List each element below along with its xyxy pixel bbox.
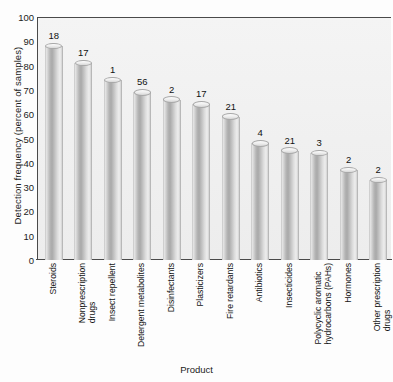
bar-value-label: 4 — [258, 127, 263, 138]
bar: 2 — [340, 170, 358, 260]
bar-value-label: 18 — [48, 30, 59, 41]
bar: 21 — [281, 151, 299, 260]
x-axis-category-labels: SteroidsNonprescriptiondrugsInsect repel… — [37, 263, 391, 363]
bar-body — [251, 143, 269, 260]
category-label: Hormones — [344, 263, 354, 303]
category-label: Nonprescriptiondrugs — [78, 263, 97, 323]
category-label-line: drugs — [383, 263, 393, 331]
category-label-line: Antibiotics — [255, 263, 265, 302]
x-axis-title: Product — [0, 364, 393, 375]
bar-value-label: 2 — [376, 164, 381, 175]
category-label-line: Hormones — [344, 263, 354, 303]
bar-top-cap — [45, 43, 62, 49]
y-tick-label: 90 — [8, 36, 34, 47]
bar: 1 — [104, 80, 122, 260]
category-label: Steroids — [49, 263, 59, 295]
bar-value-label: 21 — [284, 135, 295, 146]
category-label-line: Fire retardants — [226, 263, 236, 319]
bar: 56 — [133, 92, 151, 260]
category-label-line: Insecticides — [285, 263, 295, 308]
y-tick-label: 30 — [8, 182, 34, 193]
bar-body — [192, 104, 210, 260]
y-tick-label: 10 — [8, 230, 34, 241]
category-label-line: hydrocarbons (PAHs) — [324, 263, 334, 345]
bar-series: 181715621721421322 — [37, 17, 391, 260]
bar: 21 — [222, 117, 240, 260]
category-label: Fire retardants — [226, 263, 236, 319]
category-label-line: drugs — [88, 263, 98, 323]
bar-body — [369, 180, 387, 260]
category-label-line: Disinfectants — [167, 263, 177, 312]
bar-value-label: 2 — [346, 154, 351, 165]
bar-value-label: 17 — [196, 88, 207, 99]
bar-top-cap — [222, 113, 239, 119]
y-tick-label: 50 — [8, 133, 34, 144]
y-tick-label: 80 — [8, 60, 34, 71]
y-tick-label: 100 — [8, 12, 34, 23]
bar-value-label: 3 — [317, 137, 322, 148]
bar-body — [340, 170, 358, 260]
bar: 18 — [45, 46, 63, 260]
bar-body — [281, 151, 299, 260]
bar-top-cap — [370, 177, 387, 183]
bar-body — [310, 153, 328, 260]
bar-top-cap — [193, 101, 210, 107]
bar: 2 — [163, 100, 181, 260]
bar: 17 — [192, 104, 210, 260]
bar-value-label: 1 — [110, 64, 115, 75]
y-tick-label: 60 — [8, 109, 34, 120]
bar-body — [74, 63, 92, 260]
category-label-line: Detergent metabolites — [137, 263, 147, 347]
y-tick-label: 20 — [8, 206, 34, 217]
bar-top-cap — [134, 89, 151, 95]
bar-top-cap — [163, 96, 180, 102]
bar-chart-figure: Detection frequency (percent of samples)… — [0, 0, 393, 382]
bar-top-cap — [281, 147, 298, 153]
bar: 3 — [310, 153, 328, 260]
category-label: Other prescriptiondrugs — [373, 263, 392, 331]
bar: 17 — [74, 63, 92, 260]
bar-top-cap — [75, 60, 92, 66]
bar-body — [163, 100, 181, 260]
category-label-line: Plasticizers — [196, 263, 206, 306]
bar-body — [45, 46, 63, 260]
bar-value-label: 56 — [137, 76, 148, 87]
category-label: Insect repellent — [108, 263, 118, 321]
bar-body — [222, 117, 240, 260]
bar: 2 — [369, 180, 387, 260]
category-label-line: Steroids — [49, 263, 59, 295]
category-label: Disinfectants — [167, 263, 177, 312]
y-axis-tick-labels: 1009080706050403020100 — [8, 0, 34, 382]
bar-body — [133, 92, 151, 260]
category-label: Antibiotics — [255, 263, 265, 302]
bar-top-cap — [104, 77, 121, 83]
y-tick-label: 40 — [8, 157, 34, 168]
bar-value-label: 2 — [169, 84, 174, 95]
bar-top-cap — [311, 150, 328, 156]
bar-value-label: 17 — [78, 47, 89, 58]
bar-top-cap — [252, 140, 269, 146]
category-label: Plasticizers — [196, 263, 206, 306]
y-tick-label: 0 — [8, 255, 34, 266]
y-tick-label: 70 — [8, 84, 34, 95]
category-label: Insecticides — [285, 263, 295, 308]
category-label: Detergent metabolites — [137, 263, 147, 347]
bar-top-cap — [340, 167, 357, 173]
category-label-line: Insect repellent — [108, 263, 118, 321]
bar-value-label: 21 — [225, 101, 236, 112]
bar-body — [104, 80, 122, 260]
bar: 4 — [251, 143, 269, 260]
category-label: Polycyclic aromatichydrocarbons (PAHs) — [314, 263, 333, 345]
